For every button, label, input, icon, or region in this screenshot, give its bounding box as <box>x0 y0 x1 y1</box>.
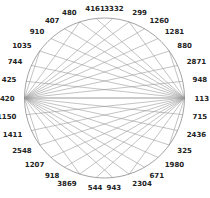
node-label: 2436 <box>187 131 207 139</box>
node-label: 1207 <box>25 161 45 169</box>
chord-line <box>25 51 170 98</box>
node-label: 1150 <box>0 113 17 121</box>
chord-line <box>25 65 178 98</box>
chord-lines <box>25 18 185 177</box>
node-label: 948 <box>193 76 208 84</box>
node-label: 2871 <box>187 58 207 66</box>
chord-diagram: 4804161333229912601281880287194811347152… <box>0 0 209 198</box>
node-label: 480 <box>62 9 77 17</box>
chord-line <box>40 51 185 98</box>
node-label: 425 <box>2 76 17 84</box>
node-label: 3869 <box>57 180 77 188</box>
node-label: 407 <box>45 17 60 25</box>
node-label: 299 <box>132 9 147 17</box>
node-label: 3332 <box>104 5 124 13</box>
node-label: 1134 <box>195 95 210 103</box>
node-label: 880 <box>177 42 192 50</box>
node-label: 1411 <box>3 131 23 139</box>
node-label: 715 <box>193 113 208 121</box>
node-label: 1260 <box>150 17 170 25</box>
node-label: 3420 <box>0 95 15 103</box>
node-label: 1035 <box>12 42 32 50</box>
chord-line <box>31 65 184 98</box>
node-label: 544 <box>88 184 103 192</box>
node-label: 2548 <box>12 147 32 155</box>
chord-line <box>31 98 184 131</box>
node-label: 910 <box>30 28 45 36</box>
node-label: 943 <box>107 184 122 192</box>
chord-line <box>40 98 185 145</box>
node-label: 2304 <box>132 180 152 188</box>
node-label: 1980 <box>165 161 185 169</box>
node-label: 918 <box>45 172 60 180</box>
chord-line <box>25 98 178 131</box>
node-label: 1281 <box>165 28 185 36</box>
chord-line <box>25 98 170 145</box>
node-label: 4161 <box>85 5 105 13</box>
node-label: 744 <box>8 58 23 66</box>
node-label: 325 <box>177 147 192 155</box>
